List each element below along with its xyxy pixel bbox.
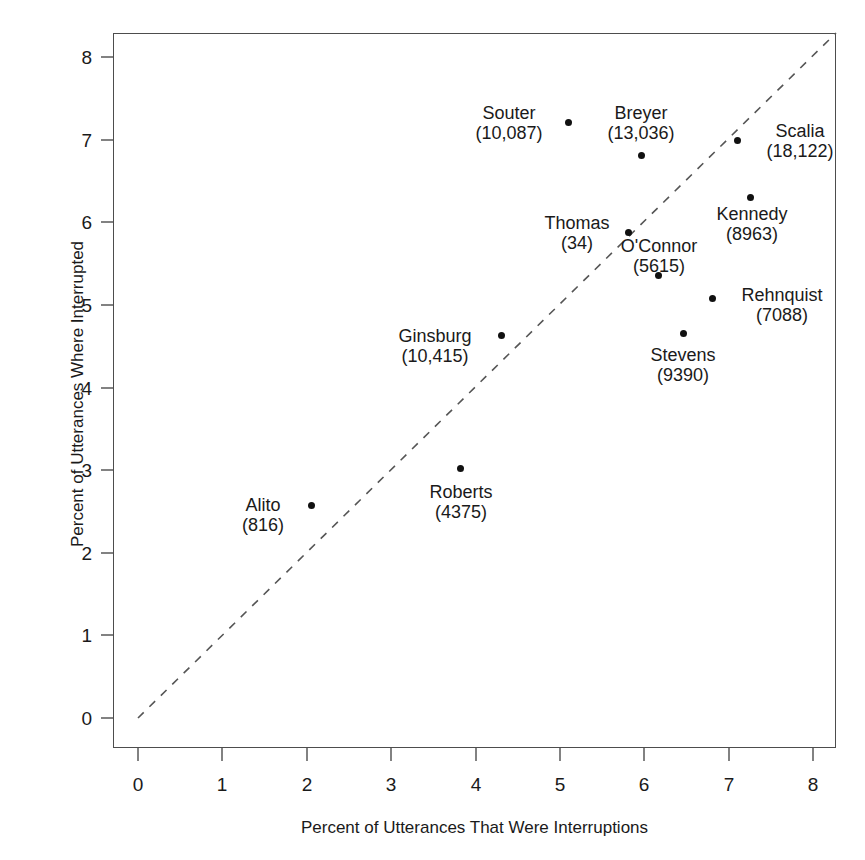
datapoint-breyer[interactable]	[638, 152, 645, 159]
point-label-rehnquist-name: Rehnquist	[722, 285, 842, 305]
x-axis-ticks	[138, 748, 813, 761]
y-axis-title: Percent of Utterances Where Interrupted	[68, 37, 88, 752]
point-label-roberts: Roberts (4375)	[406, 482, 516, 522]
point-label-scalia: Scalia (18,122)	[745, 121, 855, 161]
x-tick-label-8: 8	[793, 775, 833, 794]
x-tick-label-5: 5	[540, 775, 580, 794]
datapoint-scalia[interactable]	[734, 137, 741, 144]
point-label-roberts-name: Roberts	[406, 482, 516, 502]
x-axis-title: Percent of Utterances That Were Interrup…	[113, 818, 836, 838]
datapoint-roberts[interactable]	[457, 465, 464, 472]
point-label-ginsburg-count: (10,415)	[376, 346, 494, 366]
point-label-stevens: Stevens (9390)	[628, 345, 738, 385]
x-tick-label-1: 1	[202, 775, 242, 794]
datapoint-thomas[interactable]	[625, 229, 632, 236]
x-tick-label-7: 7	[709, 775, 749, 794]
x-tick-label-6: 6	[624, 775, 664, 794]
point-label-breyer: Breyer (13,036)	[582, 103, 700, 143]
datapoint-rehnquist[interactable]	[709, 295, 716, 302]
point-label-alito: Alito (816)	[222, 495, 304, 535]
x-tick-label-3: 3	[371, 775, 411, 794]
point-label-breyer-name: Breyer	[582, 103, 700, 123]
x-tick-label-2: 2	[287, 775, 327, 794]
point-label-breyer-count: (13,036)	[582, 123, 700, 143]
point-label-kennedy-name: Kennedy	[697, 204, 807, 224]
datapoint-stevens[interactable]	[680, 330, 687, 337]
point-label-scalia-name: Scalia	[745, 121, 855, 141]
point-label-souter-count: (10,087)	[454, 123, 564, 143]
datapoint-kennedy[interactable]	[747, 194, 754, 201]
point-label-stevens-count: (9390)	[628, 365, 738, 385]
point-label-alito-count: (816)	[222, 515, 304, 535]
point-label-oconnor-name: O'Connor	[604, 236, 714, 256]
point-label-oconnor-count: (5615)	[604, 256, 714, 276]
point-label-souter-name: Souter	[454, 103, 564, 123]
point-label-rehnquist-count: (7088)	[722, 305, 842, 325]
x-tick-label-0: 0	[118, 775, 158, 794]
point-label-thomas-name: Thomas	[530, 213, 624, 233]
datapoint-ginsburg[interactable]	[498, 332, 505, 339]
point-label-ginsburg-name: Ginsburg	[376, 326, 494, 346]
scatter-plot-figure: 0 1 2 3 4 5 6 7 8 0 1 2 3 4 5 6 7 8 Perc…	[0, 0, 865, 860]
x-tick-label-4: 4	[456, 775, 496, 794]
point-label-oconnor: O'Connor (5615)	[604, 236, 714, 276]
point-label-roberts-count: (4375)	[406, 502, 516, 522]
datapoint-souter[interactable]	[565, 119, 572, 126]
point-label-alito-name: Alito	[222, 495, 304, 515]
point-label-ginsburg: Ginsburg (10,415)	[376, 326, 494, 366]
point-label-stevens-name: Stevens	[628, 345, 738, 365]
point-label-rehnquist: Rehnquist (7088)	[722, 285, 842, 325]
point-label-scalia-count: (18,122)	[745, 141, 855, 161]
y-axis-ticks	[101, 57, 113, 718]
point-label-souter: Souter (10,087)	[454, 103, 564, 143]
datapoint-alito[interactable]	[308, 502, 315, 509]
